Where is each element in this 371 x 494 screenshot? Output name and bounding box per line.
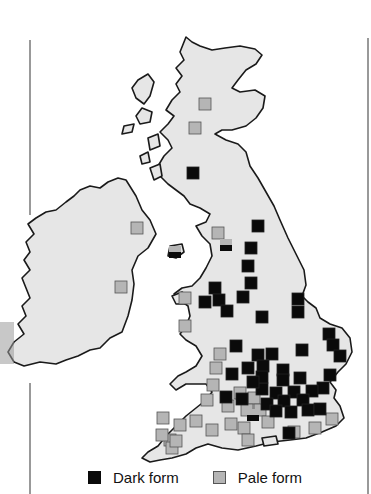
pale-form-marker: [210, 362, 222, 374]
isle-of-wight: [262, 436, 278, 446]
dark-form-marker: [220, 391, 232, 403]
pale-form-marker: [214, 348, 226, 360]
dark-form-marker: [257, 360, 269, 372]
scottish-islands: [150, 164, 162, 180]
pale-form-marker: [309, 422, 321, 434]
legend-label-dark: Dark form: [113, 469, 179, 486]
dark-form-marker: [285, 406, 297, 418]
pale-form-marker: [212, 227, 224, 239]
dark-form-marker: [334, 350, 346, 362]
pale-form-marker: [326, 413, 338, 425]
dark-form-marker: [283, 427, 295, 439]
pale-form-marker: [179, 292, 191, 304]
scottish-islands: [140, 152, 150, 164]
dark-form-marker: [292, 293, 304, 305]
dark-form-marker: [317, 382, 329, 394]
dark-form-marker: [242, 362, 254, 374]
pale-form-marker: [206, 424, 218, 436]
dark-form-marker: [199, 296, 211, 308]
british-isles-map: [0, 0, 371, 494]
pale-form-marker: [170, 435, 182, 447]
dark-form-marker: [252, 349, 264, 361]
dark-form-marker: [324, 369, 336, 381]
dark-form-marker: [296, 344, 308, 356]
dark-form-marker: [277, 374, 289, 386]
map-edge-shadow: [0, 322, 14, 364]
dark-form-marker: [314, 403, 326, 415]
dark-form-marker: [323, 328, 335, 340]
dark-form-marker: [256, 311, 268, 323]
pale-form-marker: [156, 429, 168, 441]
dark-form-marker: [292, 306, 304, 318]
pale-form-marker: [242, 434, 254, 446]
pale-form-marker: [262, 416, 274, 428]
pale-form-marker: [238, 422, 250, 434]
dark-form-marker: [187, 167, 199, 179]
dark-form-marker: [247, 376, 259, 388]
pale-form-marker: [131, 222, 143, 234]
pale-form-marker: [157, 412, 169, 424]
pale-form-marker: [199, 98, 211, 110]
mixed-form-marker: [220, 239, 232, 251]
legend-label-pale: Pale form: [238, 469, 302, 486]
legend-item-dark: Dark form: [88, 469, 179, 486]
pale-form-marker: [190, 415, 202, 427]
dark-square-icon: [88, 471, 101, 484]
dark-form-marker: [230, 340, 242, 352]
dark-form-marker: [221, 305, 233, 317]
mixed-form-marker: [247, 409, 259, 421]
legend-item-pale: Pale form: [213, 469, 302, 486]
legend: Dark form Pale form: [88, 466, 336, 488]
dark-form-marker: [226, 368, 238, 380]
dark-form-marker: [237, 291, 249, 303]
pale-form-marker: [174, 419, 186, 431]
dark-form-marker: [209, 282, 221, 294]
pale-form-marker: [207, 379, 219, 391]
dark-form-marker: [245, 242, 257, 254]
dark-form-marker: [294, 372, 306, 384]
dark-form-marker: [252, 220, 264, 232]
pale-form-marker: [115, 281, 127, 293]
pale-form-marker: [179, 320, 191, 332]
scottish-islands: [136, 108, 152, 124]
pale-form-marker: [201, 394, 213, 406]
dark-form-marker: [213, 294, 225, 306]
pale-square-icon: [213, 471, 226, 484]
dark-form-marker: [236, 393, 248, 405]
dark-form-marker: [266, 348, 278, 360]
dark-form-marker: [302, 404, 314, 416]
scottish-islands: [148, 134, 160, 150]
dark-form-marker: [327, 339, 339, 351]
scottish-islands: [132, 74, 154, 104]
pale-form-marker: [225, 418, 237, 430]
dark-form-marker: [242, 260, 254, 272]
pale-form-marker: [189, 122, 201, 134]
dark-form-marker: [270, 405, 282, 417]
dark-form-marker: [245, 277, 257, 289]
mixed-form-marker: [169, 246, 181, 258]
scottish-islands: [122, 124, 134, 134]
